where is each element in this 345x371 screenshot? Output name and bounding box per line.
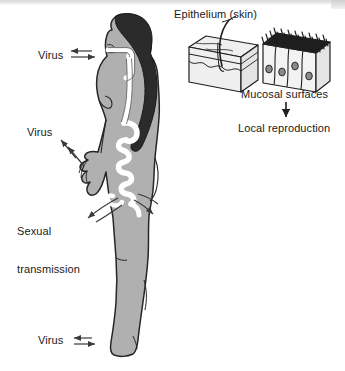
label-local-reproduction: Local reproduction bbox=[238, 122, 330, 135]
label-mucosal-surfaces: Mucosal surfaces bbox=[241, 88, 328, 101]
arrow-upleft-icon bbox=[61, 140, 84, 166]
skin-epithelium-block-icon bbox=[189, 20, 258, 92]
mucosal-epithelium-block-icon bbox=[262, 28, 330, 92]
label-virus-arm: Virus bbox=[27, 126, 52, 139]
figure-canvas: Virus Virus Sexual transmission Virus Ep… bbox=[0, 0, 345, 371]
label-epithelium-skin: Epithelium (skin) bbox=[174, 8, 257, 21]
label-virus-nose: Virus bbox=[38, 49, 63, 62]
label-virus-foot: Virus bbox=[38, 334, 63, 347]
label-sexual-transmission-line1: Sexual bbox=[17, 225, 80, 238]
label-sexual-transmission-line2: transmission bbox=[17, 263, 80, 276]
label-sexual-transmission: Sexual transmission bbox=[17, 200, 80, 300]
